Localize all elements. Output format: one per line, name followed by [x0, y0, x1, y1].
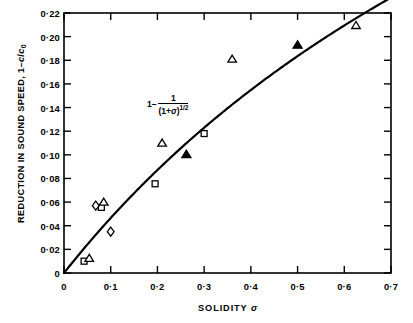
y-axis-tick-labels: 00·020·040·060·080·100·120·140·160·180·2… — [0, 0, 60, 323]
sigma-symbol: σ — [251, 303, 258, 313]
x-axis-title: SOLIDITY σ — [64, 303, 392, 313]
data-point-open-triangle — [352, 22, 361, 29]
curve-equation-annotation: 1– 1 (1+σ)1/2 — [147, 94, 188, 115]
data-markers — [81, 22, 360, 265]
data-point-open-square — [201, 131, 207, 137]
x-tick-label: 0·2 — [137, 281, 177, 292]
y-axis-title-math: 1–c/c0 — [16, 44, 26, 73]
plot-area — [0, 0, 413, 323]
data-point-filled-triangle — [182, 150, 191, 157]
equation-numerator: 1 — [158, 94, 188, 104]
equation-exponent: 1/2 — [179, 104, 188, 111]
x-tick-label: 0·7 — [371, 281, 411, 292]
x-tick-label: 0·4 — [231, 281, 271, 292]
y-axis-title: REDUCTION IN SOUND SPEED, 1–c/c0 — [16, 9, 27, 259]
x-tick-label: 0·6 — [324, 281, 364, 292]
data-point-open-diamond — [107, 227, 114, 236]
data-point-open-triangle — [158, 139, 167, 146]
x-tick-label: 0 — [44, 281, 84, 292]
data-point-open-triangle — [228, 55, 237, 62]
x-tick-label: 0·3 — [184, 281, 224, 292]
y-tick-label: 0 — [18, 268, 60, 279]
x-axis-title-text: SOLIDITY — [198, 303, 247, 313]
data-point-filled-triangle — [293, 41, 302, 48]
x-axis-tick-labels: 00·10·20·30·40·50·60·7 — [0, 281, 413, 297]
equation-fraction: 1 (1+σ)1/2 — [158, 94, 188, 115]
x-tick-label: 0·5 — [278, 281, 318, 292]
data-point-open-triangle — [99, 198, 108, 205]
data-point-open-square — [152, 181, 158, 187]
y-axis-title-text: REDUCTION IN SOUND SPEED, — [16, 73, 26, 223]
equation-lead: 1– — [147, 100, 156, 109]
chart-figure: 00·020·040·060·080·100·120·140·160·180·2… — [0, 0, 413, 323]
equation-denominator: (1+σ)1/2 — [158, 104, 188, 116]
x-tick-label: 0·1 — [91, 281, 131, 292]
